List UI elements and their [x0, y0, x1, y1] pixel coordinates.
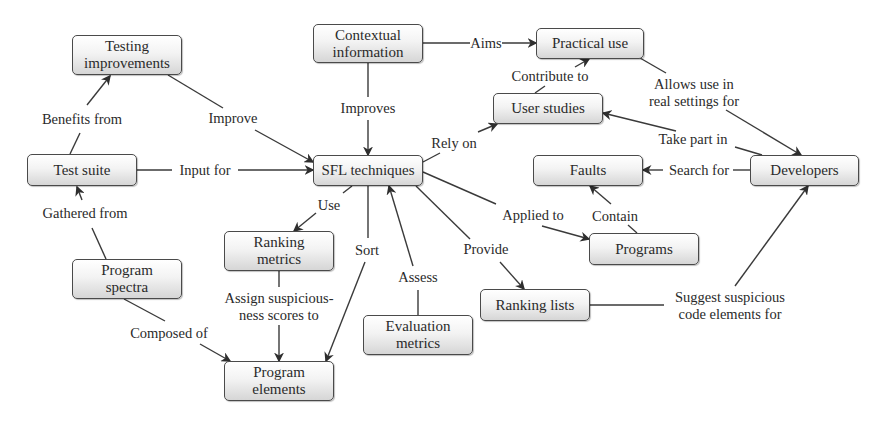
edge-label-evaluation-metrics-to-sfl-techniques: Assess — [398, 269, 437, 286]
arrow-icon — [735, 186, 808, 286]
edge-label-developers-to-faults: Search for — [669, 162, 729, 179]
node-contextual-information[interactable]: Contextual information — [313, 24, 423, 63]
arrow-icon — [603, 113, 676, 131]
edge-line-test-suite-to-testing-improvements — [70, 133, 80, 154]
node-ranking-lists[interactable]: Ranking lists — [480, 289, 590, 321]
arrow-icon — [77, 187, 82, 200]
arrow-icon — [389, 186, 413, 266]
edge-label-ranking-metrics-to-program-elements: Assign suspicious- ness scores to — [224, 290, 333, 324]
node-developers[interactable]: Developers — [750, 155, 859, 186]
arrow-icon — [500, 262, 524, 289]
edge-line-sfl-techniques-to-ranking-metrics — [343, 186, 352, 193]
node-practical-use[interactable]: Practical use — [536, 28, 644, 59]
concept-map: Testing improvementsContextual informati… — [0, 0, 887, 423]
node-testing-improvements[interactable]: Testing improvements — [72, 35, 182, 75]
edge-label-program-spectra-to-test-suite: Gathered from — [43, 205, 128, 222]
edge-label-sfl-techniques-to-program-elements: Sort — [355, 242, 379, 259]
node-sfl-techniques[interactable]: SFL techniques — [313, 155, 423, 186]
arrow-icon — [294, 213, 316, 231]
edge-line-programs-to-faults — [628, 225, 637, 233]
node-program-spectra[interactable]: Program spectra — [72, 259, 182, 299]
arrow-icon — [590, 186, 611, 204]
edge-label-contextual-information-to-practical-use: Aims — [470, 35, 501, 52]
edge-line-testing-improvements-to-sfl-techniques — [168, 75, 223, 108]
arrow-icon — [87, 76, 110, 105]
arrow-icon — [542, 226, 589, 239]
edge-label-programs-to-faults: Contain — [592, 208, 638, 225]
arrow-icon — [478, 124, 497, 132]
edge-label-sfl-techniques-to-ranking-metrics: Use — [318, 197, 341, 214]
node-faults[interactable]: Faults — [533, 155, 643, 186]
edge-label-developers-to-user-studies: Take part in — [658, 131, 727, 148]
arrow-icon — [255, 130, 313, 162]
edge-label-ranking-lists-to-developers: Suggest suspicious code elements for — [675, 289, 785, 323]
edge-line-developers-to-user-studies — [735, 147, 762, 155]
edge-label-sfl-techniques-to-programs: Applied to — [502, 207, 564, 224]
node-evaluation-metrics[interactable]: Evaluation metrics — [363, 315, 473, 355]
node-ranking-metrics[interactable]: Ranking metrics — [224, 231, 334, 271]
node-test-suite[interactable]: Test suite — [27, 154, 137, 186]
edge-label-sfl-techniques-to-user-studies: Rely on — [431, 135, 477, 152]
node-program-elements[interactable]: Program elements — [224, 361, 334, 401]
edge-label-test-suite-to-sfl-techniques: Input for — [179, 162, 230, 179]
edge-line-user-studies-to-practical-use — [535, 86, 545, 93]
edge-line-program-spectra-to-test-suite — [92, 228, 106, 259]
arrow-icon — [575, 59, 589, 67]
edge-line-program-spectra-to-program-elements — [124, 299, 165, 321]
edge-label-test-suite-to-testing-improvements: Benefits from — [42, 111, 122, 128]
edge-label-program-spectra-to-program-elements: Composed of — [130, 325, 208, 342]
edge-label-sfl-techniques-to-ranking-lists: Provide — [463, 241, 508, 258]
edge-line-practical-use-to-developers — [640, 58, 666, 73]
edge-line-sfl-techniques-to-programs — [423, 172, 496, 204]
node-user-studies[interactable]: User studies — [493, 93, 603, 124]
edge-label-user-studies-to-practical-use: Contribute to — [512, 68, 589, 85]
edge-label-practical-use-to-developers: Allows use in real settings for — [649, 76, 739, 110]
edge-label-contextual-information-to-sfl-techniques: Improves — [341, 100, 396, 117]
edge-line-sfl-techniques-to-ranking-lists — [416, 186, 470, 239]
arrow-icon — [200, 344, 230, 361]
edge-label-testing-improvements-to-sfl-techniques: Improve — [208, 110, 257, 127]
node-programs[interactable]: Programs — [589, 233, 699, 265]
edge-line-sfl-techniques-to-user-studies — [423, 153, 440, 162]
